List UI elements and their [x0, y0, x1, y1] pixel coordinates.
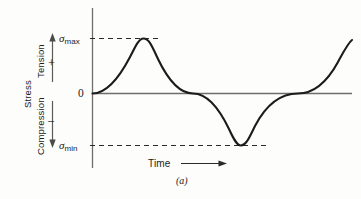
stress-cycle-plot: [0, 0, 361, 199]
sigma-min-label: σmin: [59, 140, 78, 153]
compression-axis-label: Compression: [36, 97, 46, 155]
time-arrow-icon: [181, 161, 227, 167]
zero-axis-label: 0: [78, 88, 84, 100]
positive-sign-label: +: [48, 57, 55, 69]
time-axis-label: Time: [148, 159, 170, 169]
figure-caption: (a): [176, 176, 188, 186]
stress-time-figure: σmax σmin 0 + – Tension Compression Stre…: [0, 0, 361, 199]
negative-sign-label: –: [48, 114, 54, 126]
sigma-max-subscript: max: [64, 37, 79, 46]
sigma-min-subscript: min: [64, 144, 77, 153]
tension-axis-label: Tension: [36, 44, 46, 78]
stress-curve: [93, 39, 353, 146]
stress-axis-label: Stress: [23, 80, 33, 108]
sigma-max-label: σmax: [59, 33, 80, 46]
